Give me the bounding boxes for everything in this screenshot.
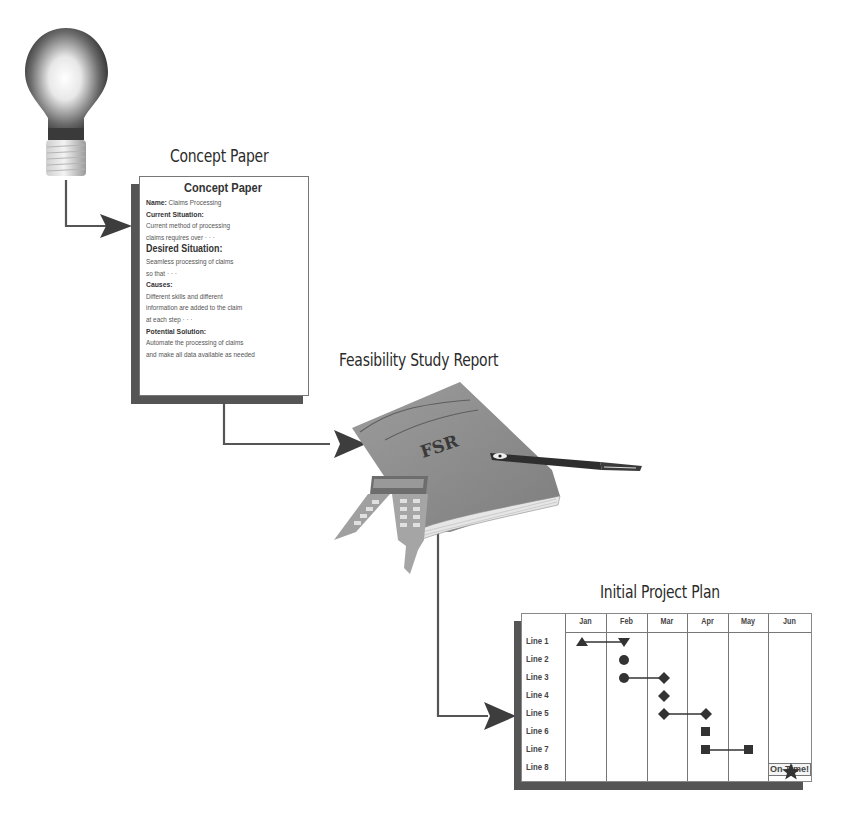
gantt-markers [522,614,813,783]
circle-marker [619,655,629,665]
diamond-marker [658,708,670,720]
project-plan-gantt-chart: JanFebMarAprMayJun Line 1Line 2Line 3Lin… [521,613,812,782]
square-marker [701,727,710,736]
project-plan-title: Initial Project Plan [600,582,720,602]
diamond-marker [700,708,712,720]
circle-marker [619,673,629,683]
diamond-marker [658,690,670,702]
star-icon [782,763,800,780]
square-marker [701,745,710,754]
diamond-marker [658,672,670,684]
calculator-icon [334,476,428,574]
square-marker [744,745,753,754]
